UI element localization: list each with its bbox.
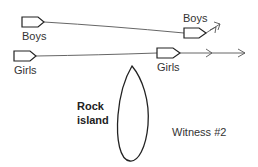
witness-label: Witness #2	[172, 127, 226, 138]
boys-start-label: Boys	[22, 31, 46, 42]
girls-boat-start	[14, 51, 36, 61]
island-label-line2: island	[77, 115, 109, 126]
boys-boat-start	[22, 17, 44, 27]
girls-end-label: Girls	[157, 62, 180, 73]
island-label-line1: Rock	[77, 101, 104, 112]
girls-boat-end	[157, 48, 180, 58]
boys-boat-end	[184, 28, 206, 38]
rock-island-shape	[118, 66, 149, 161]
girls-path	[36, 53, 157, 56]
boys-arrow-icon	[206, 22, 220, 33]
boys-path	[44, 22, 184, 33]
girls-start-label: Girls	[14, 65, 37, 76]
boys-end-label: Boys	[183, 13, 207, 24]
race-diagram	[0, 0, 258, 167]
girls-arrow-icon	[180, 49, 245, 57]
